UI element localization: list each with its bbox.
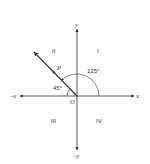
- x-axis-label: x: [135, 92, 139, 99]
- quadrant-i-label: I: [97, 48, 99, 54]
- angle-45-label: 45°: [53, 85, 63, 91]
- angle-arc-135: [61, 74, 99, 96]
- point-p-dot: [53, 71, 55, 73]
- quadrant-ii-label: II: [52, 48, 56, 54]
- quadrant-iii-label: III: [51, 118, 56, 124]
- y-axis-label: y: [75, 21, 79, 28]
- neg-x-axis-label: -x: [11, 92, 16, 99]
- angle-diagram: y -y x -x O II I III IV P 135° 45°: [0, 0, 150, 164]
- origin-label: O: [70, 98, 75, 105]
- point-p-label: P: [56, 64, 61, 71]
- quadrant-iv-label: IV: [96, 118, 102, 124]
- neg-y-axis-label: -y: [74, 152, 79, 159]
- angle-arc-45: [67, 89, 70, 96]
- angle-135-label: 135°: [87, 68, 100, 74]
